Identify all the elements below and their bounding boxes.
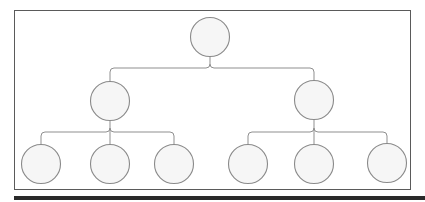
node-leaf-6 <box>368 144 407 183</box>
org-chart-diagram <box>0 0 425 202</box>
node-root <box>191 18 230 57</box>
edge-root-right <box>210 64 314 81</box>
node-leaf-2 <box>91 145 130 184</box>
edge-right-to-leaf-4 <box>248 128 314 145</box>
node-child-left <box>91 82 130 121</box>
node-child-right <box>295 81 334 120</box>
bottom-rule <box>14 196 425 200</box>
node-leaf-1 <box>22 145 61 184</box>
edges-right <box>248 120 387 145</box>
tree-canvas <box>0 0 425 202</box>
edge-left-to-leaf-3 <box>110 128 174 145</box>
node-leaf-3 <box>155 145 194 184</box>
edge-root-stem <box>206 57 210 68</box>
edges-root <box>110 57 314 81</box>
edge-left-to-leaf-1 <box>41 128 110 145</box>
node-leaf-5 <box>295 145 334 184</box>
edge-right-to-leaf-6 <box>314 128 387 144</box>
node-leaf-4 <box>229 145 268 184</box>
edge-root-left <box>110 68 206 81</box>
edges-left <box>41 121 174 145</box>
